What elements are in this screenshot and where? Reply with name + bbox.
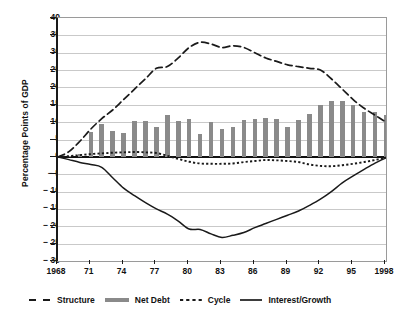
thick-gray-line-swatch (104, 296, 130, 304)
legend-item: Structure (28, 295, 95, 305)
x-tick-mark (351, 260, 352, 264)
legend-item: Interest/Growth (239, 295, 331, 305)
x-tick-mark (286, 260, 287, 264)
x-tick-mark (220, 260, 221, 264)
series-line-structure (58, 42, 386, 157)
solid-line-swatch (239, 296, 263, 304)
dotted-line-swatch (179, 296, 203, 304)
x-tick-mark (253, 260, 254, 264)
legend-item: Cycle (179, 295, 231, 305)
legend-item-label: Interest/Growth (268, 295, 331, 305)
x-tick-mark (122, 260, 123, 264)
legend-item-label: Structure (57, 295, 95, 305)
x-tick-mark (56, 260, 57, 264)
legend-item-label: Net Debt (135, 295, 170, 305)
chart-legend: StructureNet DebtCycleInterest/Growth (28, 292, 378, 308)
x-tick-mark (318, 260, 319, 264)
x-tick-label: 1998 (364, 266, 398, 276)
legend-item: Net Debt (104, 295, 170, 305)
x-tick-mark (154, 260, 155, 264)
x-tick-mark (384, 260, 385, 264)
series-line-interest-growth (58, 157, 386, 238)
x-tick-mark (187, 260, 188, 264)
line-series-layer (58, 18, 386, 261)
dashed-line-swatch (28, 296, 52, 304)
x-tick-mark (89, 260, 90, 264)
legend-item-label: Cycle (208, 295, 231, 305)
series-line-cycle (58, 152, 386, 166)
plot-area (56, 17, 387, 262)
